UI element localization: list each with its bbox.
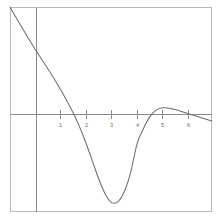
chart-figure: 1 2 3 4 5 6 — [0, 0, 219, 221]
tick-label-4: 4 — [136, 122, 139, 128]
tick-label-1: 1 — [59, 122, 62, 128]
tick-label-3: 3 — [110, 122, 113, 128]
tick-label-2: 2 — [85, 122, 88, 128]
plot-canvas: 1 2 3 4 5 6 — [0, 0, 219, 221]
data-curve-line — [10, 7, 212, 203]
tick-label-6: 6 — [187, 122, 190, 128]
tick-label-5: 5 — [161, 122, 164, 128]
